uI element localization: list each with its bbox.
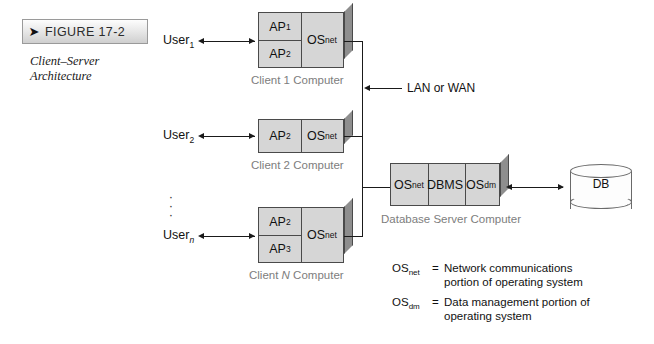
figure-caption: Client–Server Architecture bbox=[30, 54, 170, 84]
client-2-caption: Client 2 Computer bbox=[251, 159, 344, 171]
legend-equals-1: = bbox=[432, 262, 444, 289]
figure-badge-label: FIGURE 17-2 bbox=[45, 25, 125, 39]
server-db-arrow-right bbox=[558, 184, 564, 190]
user2-link-line bbox=[203, 136, 255, 137]
server-os-net-cell: OSnet bbox=[391, 164, 427, 205]
usern-arrow-left bbox=[198, 233, 204, 239]
client-2-os-net: OSnet bbox=[301, 120, 343, 152]
client-1-side-face bbox=[344, 3, 353, 59]
client-1-bus-stub bbox=[344, 41, 363, 42]
legend-key-os-net: OSnet bbox=[392, 262, 432, 289]
user2-arrow-right bbox=[249, 133, 255, 139]
client-1-caption: Client 1 Computer bbox=[251, 74, 344, 86]
client-1-os-net: OSnet bbox=[301, 13, 343, 67]
legend-row-os-net: OSnet = Network communications portion o… bbox=[392, 262, 642, 289]
db-cylinder-top bbox=[570, 164, 632, 178]
db-label: DB bbox=[570, 177, 632, 191]
client-1-front-face: AP1 AP2 OSnet bbox=[258, 12, 344, 68]
legend-row-os-dm: OSdm = Data management portion of operat… bbox=[392, 296, 642, 323]
user-label-2: User2 bbox=[163, 128, 194, 145]
figure-caption-line2: Architecture bbox=[30, 69, 170, 84]
server-side-face bbox=[500, 154, 509, 197]
usern-link-line bbox=[203, 236, 255, 237]
client-1-app-2: AP2 bbox=[259, 40, 301, 67]
client-n-app-stack: AP2 AP3 bbox=[259, 208, 301, 262]
client-n-bus-stub bbox=[344, 236, 363, 237]
lan-callout-line bbox=[370, 88, 402, 89]
figure-caption-line1: Client–Server bbox=[30, 54, 170, 69]
client-n-app-1: AP2 bbox=[259, 208, 301, 235]
client-n-front-face: AP2 AP3 OSnet bbox=[258, 207, 344, 263]
lan-wan-label: LAN or WAN bbox=[407, 81, 475, 95]
legend-os-dm-line1: Data management portion of bbox=[444, 296, 642, 310]
usern-arrow-right bbox=[249, 233, 255, 239]
db-cylinder-bottom bbox=[570, 195, 632, 209]
client-n-computer: AP2 AP3 OSnet bbox=[258, 207, 344, 263]
server-front-face: OSnet DBMS OSdm bbox=[390, 163, 500, 206]
legend-os-net-line2: portion of operating system bbox=[444, 276, 642, 290]
client-n-app-2: AP3 bbox=[259, 235, 301, 262]
client-2-app-1: AP2 bbox=[259, 120, 301, 152]
client-1-app-stack: AP1 AP2 bbox=[259, 13, 301, 67]
server-db-arrow-left bbox=[506, 184, 512, 190]
client-n-caption: Client N Computer bbox=[249, 269, 344, 281]
server-caption: Database Server Computer bbox=[381, 213, 521, 225]
legend: OSnet = Network communications portion o… bbox=[392, 262, 642, 330]
client-2-front-face: AP2 OSnet bbox=[258, 119, 344, 153]
client-1-computer: AP1 AP2 OSnet bbox=[258, 12, 344, 68]
user-label-n: Usern bbox=[163, 228, 194, 245]
network-bus-line bbox=[362, 41, 363, 236]
client-1-app-1: AP1 bbox=[259, 13, 301, 40]
user1-link-line bbox=[203, 41, 255, 42]
lan-callout-arrow bbox=[364, 85, 370, 91]
legend-key-os-dm: OSdm bbox=[392, 296, 432, 323]
server-os-dm-cell: OSdm bbox=[463, 164, 499, 205]
legend-os-net-line1: Network communications bbox=[444, 262, 642, 276]
server-db-link-line bbox=[511, 187, 563, 188]
figure-arrow-icon: ➤ bbox=[23, 25, 45, 38]
legend-text-os-dm: Data management portion of operating sys… bbox=[444, 296, 642, 323]
figure-badge: ➤ FIGURE 17-2 bbox=[22, 19, 148, 44]
database-cylinder: DB bbox=[570, 164, 632, 216]
client-n-os-net: OSnet bbox=[301, 208, 343, 262]
client-2-bus-stub bbox=[344, 136, 363, 137]
vertical-ellipsis: · · · bbox=[167, 192, 175, 219]
client-n-side-face bbox=[344, 198, 353, 254]
legend-equals-2: = bbox=[432, 296, 444, 323]
user1-arrow-left bbox=[198, 38, 204, 44]
database-server-computer: OSnet DBMS OSdm bbox=[390, 163, 500, 206]
server-bus-stub bbox=[362, 187, 390, 188]
server-dbms-cell: DBMS bbox=[427, 164, 463, 205]
legend-text-os-net: Network communications portion of operat… bbox=[444, 262, 642, 289]
client-2-side-face bbox=[344, 110, 353, 144]
legend-os-dm-line2: operating system bbox=[444, 310, 642, 324]
user-label-1: User1 bbox=[163, 33, 194, 50]
user1-arrow-right bbox=[249, 38, 255, 44]
client-2-computer: AP2 OSnet bbox=[258, 119, 344, 153]
user2-arrow-left bbox=[198, 133, 204, 139]
